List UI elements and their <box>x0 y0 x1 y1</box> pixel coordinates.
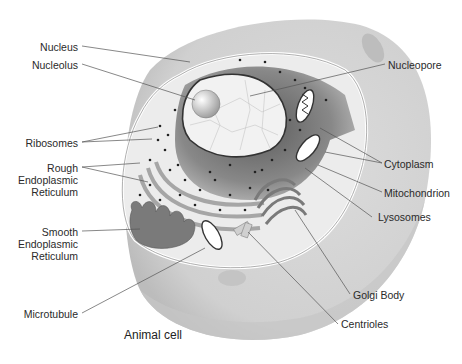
ribosome-dot <box>149 159 152 162</box>
ribosome-dot <box>169 169 172 172</box>
ribosome-dot <box>149 184 152 187</box>
label-cytoplasm: Cytoplasm <box>384 158 434 170</box>
ribosome-dot <box>249 187 252 190</box>
label-nucleopore: Nucleopore <box>388 59 442 71</box>
ribosome-dot <box>284 149 287 152</box>
ribosome-dot <box>239 59 242 62</box>
ribosome-dot <box>167 134 170 137</box>
ribosome-dot <box>164 149 167 152</box>
ribosome-dot <box>304 87 307 90</box>
ribosome-dot <box>229 164 232 167</box>
ribosome-dot <box>179 194 182 197</box>
label-centrioles: Centrioles <box>341 318 388 330</box>
label-mitochondrion: Mitochondrion <box>384 187 450 199</box>
ribosome-dot <box>184 179 187 182</box>
label-smooth-er: Smooth Endoplasmic Reticulum <box>18 226 78 262</box>
animal-cell-diagram: Nucleus Nucleolus Ribosomes Rough Endopl… <box>0 0 462 364</box>
ribosome-dot <box>254 171 257 174</box>
label-rough-er: Rough Endoplasmic Reticulum <box>18 162 78 198</box>
ribosome-dot <box>139 194 142 197</box>
ribosome-dot <box>229 194 232 197</box>
ribosome-dot <box>177 164 180 167</box>
ribosome-dot <box>199 189 202 192</box>
ribosome-dot <box>279 71 282 74</box>
label-microtubule: Microtubule <box>24 308 78 320</box>
ribosome-dot <box>194 204 197 207</box>
ribosome-dot <box>271 159 274 162</box>
ribosome-dot <box>214 179 217 182</box>
ribosome-dot <box>299 129 302 132</box>
ribosome-dot <box>159 199 162 202</box>
ribosome-dot <box>157 139 160 142</box>
vacuole <box>218 270 246 286</box>
ribosome-dot <box>264 61 267 64</box>
nucleolus <box>192 90 220 118</box>
ribosome-dot <box>289 119 292 122</box>
ribosome-dot <box>174 109 177 112</box>
label-lysosomes: Lysosomes <box>378 211 431 223</box>
label-golgi-body: Golgi Body <box>353 289 404 301</box>
ribosome-dot <box>261 169 264 172</box>
ribosome-dot <box>244 209 247 212</box>
label-nucleus: Nucleus <box>40 41 78 53</box>
ribosome-dot <box>209 171 212 174</box>
ribosome-dot <box>267 189 270 192</box>
ribosome-dot <box>219 209 222 212</box>
diagram-caption: Animal cell <box>124 328 182 342</box>
ribosome-dot <box>294 79 297 82</box>
ribosome-dot <box>325 99 328 102</box>
label-nucleolus: Nucleolus <box>32 59 78 71</box>
label-ribosomes: Ribosomes <box>25 137 78 149</box>
ribosome-dot <box>159 125 162 128</box>
